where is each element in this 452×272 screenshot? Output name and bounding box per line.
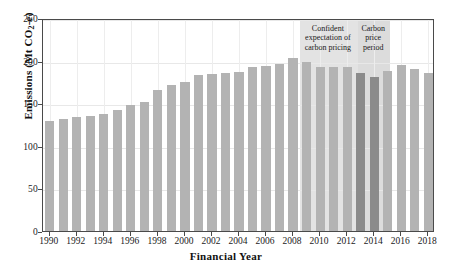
x-tick-label-2000: 2000 bbox=[174, 236, 193, 246]
bar-1996 bbox=[126, 105, 135, 231]
bar-2018 bbox=[424, 73, 433, 231]
bar-2014 bbox=[370, 77, 379, 231]
bar-2006 bbox=[261, 66, 270, 231]
bar-2000 bbox=[180, 82, 189, 231]
bar-2004 bbox=[234, 72, 243, 231]
x-tick-mark-2016 bbox=[400, 232, 401, 236]
bar-1991 bbox=[59, 119, 68, 231]
x-tick-label-2010: 2010 bbox=[310, 236, 329, 246]
bar-1995 bbox=[113, 110, 122, 231]
bar-2016 bbox=[397, 65, 406, 231]
x-tick-label-1994: 1994 bbox=[93, 236, 112, 246]
x-tick-mark-2012 bbox=[346, 232, 347, 236]
annotation-label-2: Carbon price period bbox=[357, 24, 389, 52]
x-tick-label-1990: 1990 bbox=[39, 236, 58, 246]
bar-2007 bbox=[275, 64, 284, 231]
y-tick-label-250: 250 bbox=[0, 14, 38, 24]
x-tick-label-2018: 2018 bbox=[418, 236, 437, 246]
bar-2010 bbox=[316, 67, 325, 231]
bar-2017 bbox=[410, 69, 419, 231]
x-tick-label-2014: 2014 bbox=[364, 236, 383, 246]
bar-1992 bbox=[72, 117, 81, 231]
bar-1994 bbox=[99, 114, 108, 231]
y-axis-label-subscript: 2 bbox=[27, 25, 36, 29]
x-tick-mark-1998 bbox=[157, 232, 158, 236]
x-tick-label-2006: 2006 bbox=[256, 236, 275, 246]
bar-2015 bbox=[383, 71, 392, 231]
x-tick-mark-2010 bbox=[319, 232, 320, 236]
bar-1999 bbox=[167, 85, 176, 231]
y-tick-label-150: 150 bbox=[0, 99, 38, 109]
bar-2001 bbox=[194, 75, 203, 231]
bar-2011 bbox=[329, 67, 338, 231]
y-tick-label-200: 200 bbox=[0, 57, 38, 67]
x-tick-mark-2006 bbox=[265, 232, 266, 236]
y-tick-label-100: 100 bbox=[0, 142, 38, 152]
x-tick-mark-1994 bbox=[103, 232, 104, 236]
bar-1998 bbox=[153, 90, 162, 231]
bar-2002 bbox=[207, 74, 216, 231]
x-tick-label-1992: 1992 bbox=[66, 236, 85, 246]
bar-1997 bbox=[140, 102, 149, 232]
x-tick-mark-1996 bbox=[130, 232, 131, 236]
y-tick-mark-0 bbox=[38, 232, 42, 233]
emissions-bar-chart: Emissions (Mt CO2-e) 050100150200250 199… bbox=[0, 0, 452, 272]
x-tick-mark-1992 bbox=[76, 232, 77, 236]
x-tick-label-2012: 2012 bbox=[337, 236, 356, 246]
bar-1990 bbox=[45, 121, 54, 231]
y-tick-label-0: 0 bbox=[0, 227, 38, 237]
x-tick-mark-2002 bbox=[211, 232, 212, 236]
x-tick-label-1998: 1998 bbox=[147, 236, 166, 246]
y-tick-label-50: 50 bbox=[0, 184, 38, 194]
bar-2003 bbox=[221, 73, 230, 231]
x-tick-label-2016: 2016 bbox=[391, 236, 410, 246]
bar-2008 bbox=[288, 58, 297, 231]
x-tick-label-1996: 1996 bbox=[120, 236, 139, 246]
bar-2005 bbox=[248, 67, 257, 231]
bar-2013 bbox=[356, 73, 365, 231]
annotation-label-1: Confident expectation of carbon pricing bbox=[299, 24, 357, 52]
x-tick-mark-2008 bbox=[292, 232, 293, 236]
x-tick-mark-1990 bbox=[49, 232, 50, 236]
x-tick-mark-2018 bbox=[427, 232, 428, 236]
bar-1993 bbox=[86, 116, 95, 231]
x-tick-mark-2004 bbox=[238, 232, 239, 236]
bar-2009 bbox=[302, 62, 311, 231]
x-tick-label-2004: 2004 bbox=[229, 236, 248, 246]
x-tick-mark-2000 bbox=[184, 232, 185, 236]
x-tick-label-2008: 2008 bbox=[283, 236, 302, 246]
x-tick-label-2002: 2002 bbox=[201, 236, 220, 246]
x-tick-mark-2014 bbox=[373, 232, 374, 236]
bar-2012 bbox=[343, 67, 352, 231]
x-axis-label: Financial Year bbox=[0, 250, 452, 262]
